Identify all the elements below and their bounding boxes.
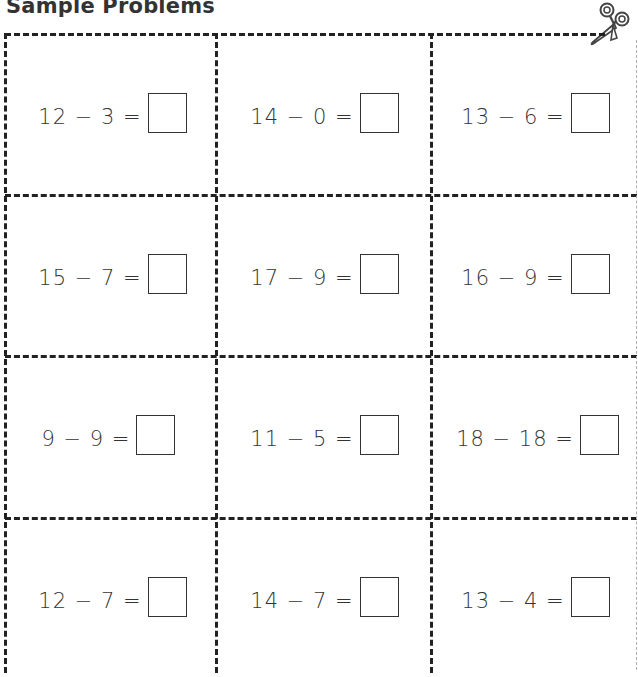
problem-card: 16 − 9 = — [430, 197, 638, 358]
answer-box[interactable] — [360, 577, 399, 617]
problem-card: 14 − 0 = — [219, 36, 430, 197]
problem-expression: 14 − 7 = — [250, 589, 353, 613]
problem-card: 13 − 6 = — [430, 36, 638, 197]
problem-expression: 9 − 9 = — [42, 427, 131, 451]
subtraction-problem: 18 − 18 = — [456, 419, 619, 459]
subtraction-problem: 12 − 3 = — [38, 97, 186, 137]
problem-expression: 12 − 7 = — [38, 589, 141, 613]
problem-expression: 13 − 6 = — [461, 105, 564, 129]
subtraction-problem: 13 − 4 = — [461, 581, 609, 621]
subtraction-problem: 17 − 9 = — [250, 258, 398, 298]
problem-card: 17 − 9 = — [219, 197, 430, 358]
subtraction-problem: 13 − 6 = — [461, 97, 609, 137]
problem-card: 12 − 3 = — [7, 36, 218, 197]
problem-card: 18 − 18 = — [432, 358, 638, 519]
answer-box[interactable] — [571, 254, 610, 294]
answer-box[interactable] — [136, 415, 175, 455]
answer-box[interactable] — [360, 254, 399, 294]
answer-box[interactable] — [360, 415, 399, 455]
answer-box[interactable] — [571, 93, 610, 133]
subtraction-problem: 14 − 0 = — [250, 97, 398, 137]
problem-expression: 14 − 0 = — [250, 105, 353, 129]
subtraction-problem: 16 − 9 = — [461, 258, 609, 298]
problem-card: 9 − 9 = — [3, 358, 214, 519]
subtraction-problem: 9 − 9 = — [42, 419, 176, 459]
problem-expression: 11 − 5 = — [250, 427, 353, 451]
answer-box[interactable] — [148, 577, 187, 617]
subtraction-problem: 12 − 7 = — [38, 581, 186, 621]
problem-card: 12 − 7 = — [7, 520, 218, 677]
subtraction-problem: 11 − 5 = — [250, 419, 398, 459]
problem-card: 13 − 4 = — [430, 520, 638, 677]
problem-card: 14 − 7 = — [219, 520, 430, 677]
problem-expression: 16 − 9 = — [461, 266, 564, 290]
subtraction-problem: 14 − 7 = — [250, 581, 398, 621]
subtraction-problem: 15 − 7 = — [38, 258, 186, 298]
answer-box[interactable] — [360, 93, 399, 133]
problem-card: 11 − 5 = — [219, 358, 430, 519]
answer-box[interactable] — [580, 415, 619, 455]
problem-expression: 15 − 7 = — [38, 266, 141, 290]
answer-box[interactable] — [148, 254, 187, 294]
answer-box[interactable] — [148, 93, 187, 133]
problem-expression: 12 − 3 = — [38, 105, 141, 129]
problem-expression: 17 − 9 = — [250, 266, 353, 290]
answer-box[interactable] — [571, 577, 610, 617]
problem-expression: 18 − 18 = — [456, 427, 574, 451]
problem-card: 15 − 7 = — [7, 197, 218, 358]
problem-expression: 13 − 4 = — [461, 589, 564, 613]
